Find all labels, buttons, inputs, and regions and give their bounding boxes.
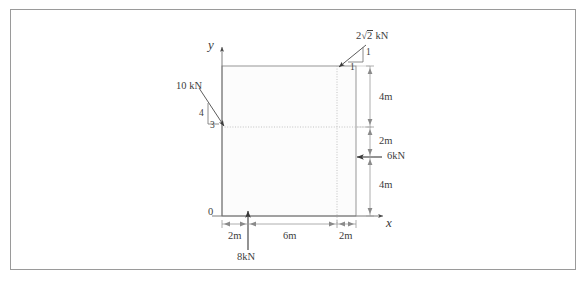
dim-h-2-label: 6m xyxy=(283,231,296,242)
dim-h-3-label: 2m xyxy=(339,231,352,242)
y-axis-label: y xyxy=(208,38,214,51)
load-tr-unit: kN xyxy=(375,30,388,41)
slope-left-rise-label: 4 xyxy=(199,109,204,119)
dim-v-1-label: 4m xyxy=(379,92,392,103)
load-left-label: 10 kN xyxy=(176,81,202,92)
dim-v-2-label: 2m xyxy=(379,136,392,147)
origin-label: 0 xyxy=(208,207,213,218)
load-right-label: 6kN xyxy=(387,151,405,162)
sqrt-radicand: 2 xyxy=(367,30,373,42)
load-top-right-label: 2√2 kN xyxy=(356,30,388,42)
diagram-stage: y x 0 2√2 kN 1 1 10 kN 4 3 8kN 6kN 2m 6m… xyxy=(0,0,588,281)
load-bottom-label: 8kN xyxy=(237,252,255,263)
dim-h-1-label: 2m xyxy=(228,231,241,242)
plate-body xyxy=(222,66,356,216)
slope-tr-run-label: 1 xyxy=(350,63,355,73)
figure-canvas: y x 0 2√2 kN 1 1 10 kN 4 3 8kN 6kN 2m 6m… xyxy=(0,0,588,281)
dim-v-3-label: 4m xyxy=(379,180,392,191)
slope-left-run-label: 3 xyxy=(210,121,215,131)
slope-tr-rise-label: 1 xyxy=(366,48,371,58)
sqrt-radical: √2 xyxy=(361,30,373,42)
x-axis-label: x xyxy=(386,216,392,229)
